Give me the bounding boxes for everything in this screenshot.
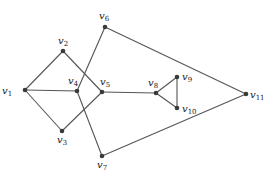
node-v9 <box>175 75 180 80</box>
label-v5: v5 <box>100 76 110 89</box>
label-v10: v10 <box>182 103 197 116</box>
edge-v5-v8 <box>102 92 156 93</box>
label-v11: v11 <box>250 89 265 102</box>
edge-v8-v10 <box>156 93 177 108</box>
node-v8 <box>154 91 159 96</box>
graph-diagram: v1v2v3v4v5v6v7v8v9v10v11 <box>0 0 271 178</box>
node-v1 <box>23 88 28 93</box>
label-v3: v3 <box>57 134 67 147</box>
edge-v1-v4 <box>25 90 77 91</box>
label-v9: v9 <box>182 71 192 84</box>
node-v10 <box>175 106 180 111</box>
node-v7 <box>100 154 105 159</box>
label-v4: v4 <box>68 75 79 88</box>
node-v3 <box>60 129 65 134</box>
edge-v6-v11 <box>105 27 246 94</box>
label-v6: v6 <box>99 10 110 23</box>
label-v2: v2 <box>58 35 68 48</box>
edge-v8-v9 <box>156 77 177 93</box>
graph-labels: v1v2v3v4v5v6v7v8v9v10v11 <box>2 10 265 172</box>
node-v5 <box>100 90 105 95</box>
node-v4 <box>75 89 80 94</box>
edge-v4-v7 <box>77 91 102 156</box>
label-v7: v7 <box>97 159 107 172</box>
edge-v1-v3 <box>25 90 62 131</box>
edge-v3-v5 <box>62 92 102 131</box>
node-v6 <box>103 25 108 30</box>
edge-v7-v11 <box>102 94 246 156</box>
node-v11 <box>244 92 249 97</box>
label-v8: v8 <box>148 77 158 90</box>
node-v2 <box>61 49 66 54</box>
edge-v1-v2 <box>25 51 63 90</box>
label-v1: v1 <box>2 85 12 98</box>
